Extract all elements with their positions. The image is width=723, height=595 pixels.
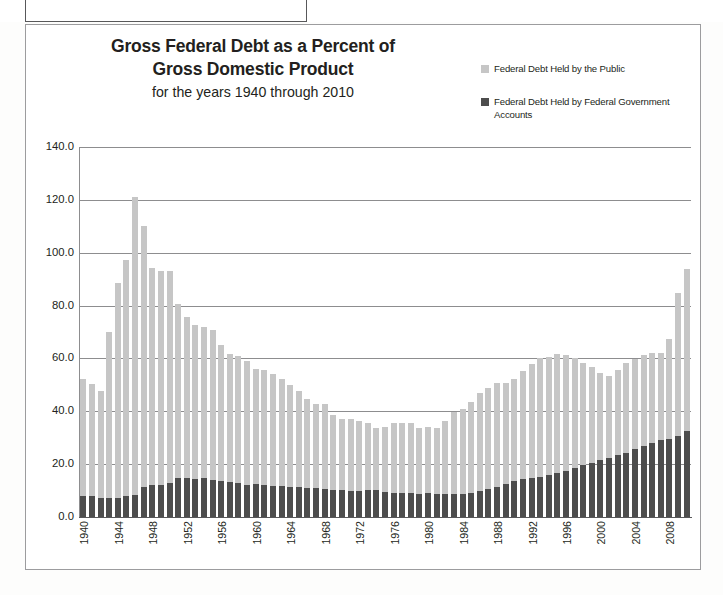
bar-1979[interactable] [416,428,422,517]
bar-1955[interactable] [210,330,216,517]
bar-1958[interactable] [235,356,241,517]
bar-1976[interactable] [391,423,397,517]
bar-segment-public-1966 [304,399,310,488]
bar-1984[interactable] [460,409,466,517]
bar-segment-government-1967 [313,488,319,517]
bar-1952[interactable] [184,317,190,517]
bar-segment-government-1979 [416,494,422,517]
bar-segment-government-1971 [348,491,354,517]
bar-1944[interactable] [115,283,121,517]
bar-segment-government-1981 [434,494,440,517]
bar-1997[interactable] [572,358,578,517]
y-tick-80.0: 80.0 [28,299,74,311]
bar-1948[interactable] [149,268,155,517]
bar-1982[interactable] [442,421,448,517]
bar-1961[interactable] [261,370,267,517]
bar-segment-government-1946 [132,495,138,517]
bar-1956[interactable] [218,345,224,517]
bar-1962[interactable] [270,374,276,517]
bar-2006[interactable] [649,353,655,517]
bar-1959[interactable] [244,361,250,517]
x-tick-1988: 1988 [492,521,504,545]
bar-1975[interactable] [382,427,388,517]
bar-segment-public-2001 [606,376,612,458]
bar-1988[interactable] [494,383,500,517]
bar-1972[interactable] [356,421,362,517]
bar-1981[interactable] [434,428,440,517]
bar-segment-government-1986 [477,491,483,517]
bar-1960[interactable] [253,369,259,517]
bar-1964[interactable] [287,385,293,517]
bar-segment-government-1991 [520,479,526,517]
bar-2010[interactable] [684,269,690,517]
bar-1947[interactable] [141,226,147,517]
bar-segment-government-1978 [408,493,414,517]
bar-1992[interactable] [529,364,535,517]
bar-1965[interactable] [296,391,302,517]
bar-2001[interactable] [606,376,612,517]
bar-1945[interactable] [123,260,129,517]
bar-1974[interactable] [373,428,379,517]
bar-1950[interactable] [167,271,173,517]
bar-2007[interactable] [658,353,664,517]
bar-1998[interactable] [580,363,586,517]
bar-1990[interactable] [511,379,517,517]
bar-1943[interactable] [106,332,112,517]
bar-2002[interactable] [615,370,621,517]
bar-1970[interactable] [339,419,345,517]
bar-2000[interactable] [597,373,603,517]
bar-2003[interactable] [623,363,629,517]
bar-1995[interactable] [554,354,560,517]
bar-2005[interactable] [641,355,647,517]
bar-1963[interactable] [279,379,285,517]
bar-1951[interactable] [175,304,181,517]
bar-1989[interactable] [503,383,509,517]
bar-segment-government-1970 [339,490,345,517]
bar-1985[interactable] [468,402,474,517]
bar-1980[interactable] [425,427,431,517]
bar-1957[interactable] [227,354,233,517]
gridline-100 [79,253,691,254]
bar-segment-public-2003 [623,363,629,452]
bar-segment-public-1990 [511,379,517,482]
bar-segment-government-2008 [666,439,672,517]
bar-1966[interactable] [304,399,310,517]
bar-segment-government-2001 [606,458,612,517]
bar-1991[interactable] [520,371,526,517]
bar-1986[interactable] [477,393,483,517]
bar-segment-government-1985 [468,493,474,517]
bar-segment-public-1956 [218,345,224,481]
y-axis-tick-labels: 0.020.040.060.080.0100.0120.0140.0 [26,147,74,518]
bar-segment-public-1963 [279,379,285,485]
bar-1949[interactable] [158,271,164,517]
bar-1973[interactable] [365,423,371,517]
bar-1996[interactable] [563,355,569,517]
bar-1940[interactable] [80,379,86,517]
gridline-140 [79,147,691,148]
bar-2009[interactable] [675,293,681,517]
bar-segment-government-1980 [425,493,431,517]
bar-segment-government-1948 [149,485,155,517]
bar-1983[interactable] [451,412,457,517]
bar-1941[interactable] [89,384,95,517]
bar-1994[interactable] [546,357,552,517]
bar-segment-government-1990 [511,481,517,517]
bar-1978[interactable] [408,423,414,517]
bar-1999[interactable] [589,367,595,517]
bar-1977[interactable] [399,423,405,517]
bar-1968[interactable] [322,404,328,517]
bar-1969[interactable] [330,415,336,517]
bar-segment-government-1996 [563,471,569,518]
bar-1953[interactable] [192,325,198,517]
bar-2004[interactable] [632,359,638,517]
bar-segment-government-1956 [218,481,224,517]
bar-1967[interactable] [313,404,319,517]
bar-1942[interactable] [98,391,104,517]
bar-1987[interactable] [485,388,491,518]
bar-1993[interactable] [537,358,543,517]
bar-1971[interactable] [348,419,354,517]
bar-1954[interactable] [201,327,207,517]
bar-2008[interactable] [666,339,672,517]
bar-1946[interactable] [132,197,138,517]
bar-segment-public-1997 [572,358,578,468]
